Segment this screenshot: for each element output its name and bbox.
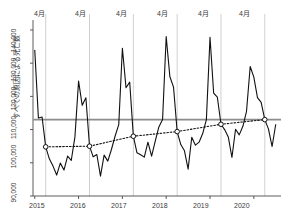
series-path-monthly_all_cause_deaths	[35, 37, 276, 176]
april-marker-2018	[175, 129, 180, 134]
plot-area	[0, 0, 282, 220]
april-marker-2015	[43, 145, 48, 150]
april-marker-2019	[219, 122, 224, 127]
data-series-lines	[35, 37, 276, 176]
axis-lines	[30, 20, 281, 199]
april-gridlines	[46, 14, 265, 196]
all-cause-mortality-chart: すべての原因による死亡数 140,000 130,000 120,000 110…	[0, 0, 282, 220]
april-marker-2016	[87, 144, 92, 149]
april-marker-2017	[131, 134, 136, 139]
april-marker-2020	[262, 117, 267, 122]
